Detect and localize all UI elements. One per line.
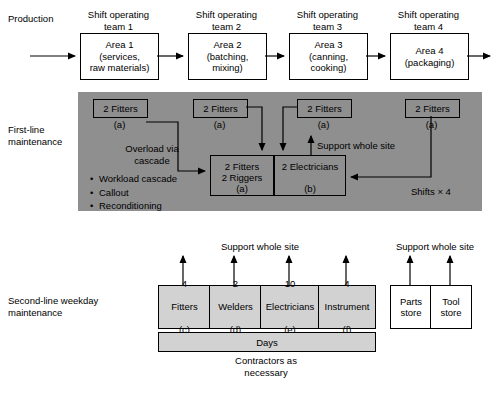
bullet-item-workload-cascade: Workload cascade: [90, 172, 220, 186]
second-line-col-instrument[interactable]: 4 Instrument (f): [318, 285, 376, 329]
first-line-fitter-box-4[interactable]: 2 Fitters: [405, 99, 460, 118]
second-line-col-electricians-role: Electricians: [266, 301, 315, 313]
area-box-4[interactable]: Area 4 (packaging): [390, 33, 469, 80]
support-whole-site-first-line: Support whole site: [317, 140, 395, 152]
second-line-col-fitters[interactable]: 4 Fitters (c): [158, 285, 211, 329]
first-line-fitter-note-3: (a): [297, 119, 350, 130]
area-box-1[interactable]: Area 1 (services, raw materials): [80, 33, 159, 80]
second-line-col-welders-count: 2: [218, 278, 253, 290]
first-line-fitter-box-2[interactable]: 2 Fitters: [193, 99, 248, 118]
parts-store-box[interactable]: Parts store: [390, 285, 432, 329]
second-line-col-instrument-role: Instrument: [325, 301, 370, 313]
tool-store-box[interactable]: Tool store: [430, 285, 472, 329]
second-line-col-instrument-count: 4: [325, 278, 370, 290]
shift-team-label-3: Shift operating team 3: [288, 9, 367, 32]
central-electricians-note: (b): [274, 183, 346, 194]
shift-team-label-4: Shift operating team 4: [389, 9, 468, 32]
second-line-col-fitters-count: 4: [171, 278, 197, 290]
bullet-item-callout: Callout: [90, 186, 220, 200]
shift-team-label-2: Shift operating team 2: [187, 9, 266, 32]
shift-team-label-1: Shift operating team 1: [79, 9, 158, 32]
bullet-item-reconditioning: Reconditioning: [90, 199, 220, 213]
area-box-3[interactable]: Area 3 (canning, cooking): [289, 33, 368, 80]
first-line-fitter-note-1: (a): [93, 119, 146, 130]
row-label-production: Production: [8, 13, 53, 25]
second-line-col-fitters-role: Fitters: [171, 301, 197, 313]
support-whole-site-second-line-left: Support whole site: [180, 241, 340, 253]
first-line-fitter-note-2: (a): [193, 119, 246, 130]
row-label-second-line: Second-line weekday maintenance: [8, 295, 98, 318]
second-line-col-electricians-count: 10: [266, 278, 315, 290]
shifts-multiplier-label: Shifts × 4: [411, 186, 451, 198]
central-fitters-riggers-note: (a): [210, 183, 274, 194]
row-label-first-line: First-line maintenance: [8, 124, 62, 147]
days-row: Days: [158, 332, 376, 352]
first-line-bullet-list: Workload cascade Callout Reconditioning: [90, 172, 220, 213]
area-box-2[interactable]: Area 2 (batching, mixing): [188, 33, 267, 80]
first-line-fitter-box-1[interactable]: 2 Fitters: [93, 99, 148, 118]
diagram-canvas: Production First-line maintenance Second…: [0, 0, 496, 397]
second-line-col-welders-role: Welders: [218, 301, 253, 313]
second-line-col-electricians[interactable]: 10 Electricians (e): [260, 285, 320, 329]
contractors-note: Contractors as necessary: [188, 355, 344, 378]
first-line-fitter-note-4: (a): [405, 119, 458, 130]
first-line-fitter-box-3[interactable]: 2 Fitters: [297, 99, 352, 118]
overload-cascade-label: Overload via cascade: [97, 143, 207, 167]
support-whole-site-second-line-right: Support whole site: [380, 241, 490, 253]
second-line-col-welders[interactable]: 2 Welders (d): [209, 285, 262, 329]
